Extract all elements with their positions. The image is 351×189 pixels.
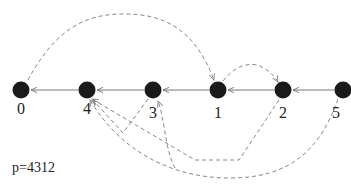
node-4 xyxy=(79,82,96,99)
node-label-2: 2 xyxy=(279,104,287,121)
permutation-caption: p=4312 xyxy=(12,160,55,176)
node-label-3: 3 xyxy=(149,104,157,121)
node-label-5: 5 xyxy=(332,104,340,121)
node-label-1: 1 xyxy=(214,104,222,121)
node-5 xyxy=(335,82,351,99)
node-3 xyxy=(145,82,162,99)
node-2 xyxy=(275,82,292,99)
node-label-0: 0 xyxy=(17,100,25,117)
node-0 xyxy=(13,82,30,99)
dashed-edge-2-to-4 xyxy=(92,99,279,160)
dashed-edge-0-to-1 xyxy=(28,14,214,80)
node-1 xyxy=(210,82,227,99)
dashed-edge-3-from-below xyxy=(158,101,175,168)
node-labels: 0 4 3 1 2 5 xyxy=(17,100,340,121)
node-label-4: 4 xyxy=(83,100,91,117)
dashed-edge-1-to-2 xyxy=(223,64,278,82)
dashed-edges xyxy=(28,14,338,178)
